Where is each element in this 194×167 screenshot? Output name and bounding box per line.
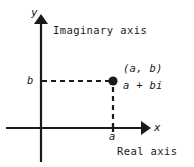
y-axis-tick-label-b: b	[27, 75, 33, 86]
y-axis-variable-label: y	[31, 7, 38, 18]
real-axis-label: Real axis	[117, 146, 178, 157]
point-expression-label: a + bi	[123, 80, 163, 91]
point-coordinates-label: (a, b)	[123, 63, 163, 74]
x-axis-tick-label-a: a	[109, 131, 115, 142]
x-axis-variable-label: x	[154, 122, 161, 133]
x-axis-arrowhead	[141, 121, 151, 135]
complex-plane-diagram: y Imaginary axis b (a, b) a + bi x a Rea…	[0, 0, 194, 167]
plotted-point-marker	[108, 76, 117, 85]
imaginary-axis-label: Imaginary axis	[53, 25, 147, 36]
